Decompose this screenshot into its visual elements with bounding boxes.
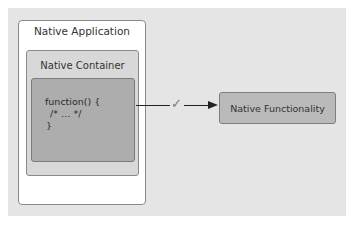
arrow-line: [184, 105, 210, 106]
native-application-label: Native Application: [19, 25, 145, 37]
code-block: function() { /* … */ }: [31, 78, 135, 162]
connector-line: [136, 105, 170, 106]
checkmark-icon: ✓: [171, 96, 182, 111]
native-functionality-box: Native Functionality: [219, 92, 336, 124]
native-container-label: Native Container: [27, 60, 138, 71]
code-line-3: }: [46, 120, 52, 131]
native-functionality-label: Native Functionality: [230, 103, 325, 114]
code-line-2: /* … */: [50, 108, 81, 119]
code-line-1: function() {: [45, 96, 100, 107]
arrow-head-icon: [208, 101, 218, 109]
